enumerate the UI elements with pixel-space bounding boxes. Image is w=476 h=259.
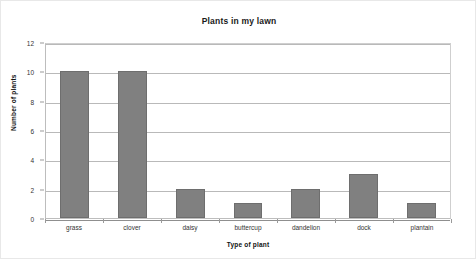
bar-dandelion[interactable] bbox=[291, 189, 320, 218]
y-tick-mark-10 bbox=[40, 72, 44, 73]
y-tick-mark-2 bbox=[40, 190, 44, 191]
bar-slot-dandelion bbox=[277, 44, 335, 218]
x-tick-mark-0 bbox=[103, 219, 104, 223]
plot-area bbox=[45, 43, 451, 219]
bar-slot-daisy bbox=[161, 44, 219, 218]
bar-slot-buttercup bbox=[219, 44, 277, 218]
y-tick-mark-6 bbox=[40, 131, 44, 132]
x-tick-label-plantain: plantain bbox=[393, 224, 451, 231]
y-tick-mark-0 bbox=[40, 219, 44, 220]
x-axis-title: Type of plant bbox=[45, 241, 451, 248]
x-axis-tick-labels: grasscloverdaisybuttercupdandeliondockpl… bbox=[45, 224, 451, 231]
x-tick-mark-origin bbox=[45, 219, 46, 223]
y-tick-label-6: 6 bbox=[30, 128, 34, 135]
y-tick-label-2: 2 bbox=[30, 187, 34, 194]
bar-clover[interactable] bbox=[118, 71, 147, 218]
x-tick-label-clover: clover bbox=[103, 224, 161, 231]
y-tick-label-0: 0 bbox=[30, 216, 34, 223]
bar-plantain[interactable] bbox=[407, 203, 436, 218]
bar-slot-clover bbox=[104, 44, 162, 218]
x-tick-label-daisy: daisy bbox=[161, 224, 219, 231]
bar-grass[interactable] bbox=[60, 71, 89, 218]
x-tick-mark-6 bbox=[451, 219, 452, 223]
y-tick-label-10: 10 bbox=[27, 69, 34, 76]
y-axis-tick-labels: 024681012 bbox=[1, 43, 41, 219]
x-tick-mark-5 bbox=[393, 219, 394, 223]
bar-slot-dock bbox=[335, 44, 393, 218]
x-tick-label-dandelion: dandelion bbox=[277, 224, 335, 231]
x-tick-mark-1 bbox=[161, 219, 162, 223]
chart-title: Plants in my lawn bbox=[1, 16, 476, 26]
y-tick-label-4: 4 bbox=[30, 157, 34, 164]
y-tick-label-12: 12 bbox=[27, 40, 34, 47]
bar-slot-plantain bbox=[392, 44, 450, 218]
y-tick-label-8: 8 bbox=[30, 99, 34, 106]
x-tick-label-buttercup: buttercup bbox=[219, 224, 277, 231]
x-tick-mark-4 bbox=[335, 219, 336, 223]
x-tick-mark-3 bbox=[277, 219, 278, 223]
y-tick-mark-12 bbox=[40, 43, 44, 44]
bar-slot-grass bbox=[46, 44, 104, 218]
y-tick-mark-8 bbox=[40, 102, 44, 103]
bar-chart-figure: Plants in my lawn Number of plants 02468… bbox=[0, 0, 476, 259]
bar-daisy[interactable] bbox=[176, 189, 205, 218]
gridline-0 bbox=[46, 220, 450, 221]
bar-series bbox=[46, 44, 450, 218]
bar-dock[interactable] bbox=[349, 174, 378, 218]
x-tick-label-dock: dock bbox=[335, 224, 393, 231]
bar-buttercup[interactable] bbox=[234, 203, 263, 218]
x-tick-label-grass: grass bbox=[45, 224, 103, 231]
y-tick-mark-4 bbox=[40, 160, 44, 161]
x-tick-mark-2 bbox=[219, 219, 220, 223]
